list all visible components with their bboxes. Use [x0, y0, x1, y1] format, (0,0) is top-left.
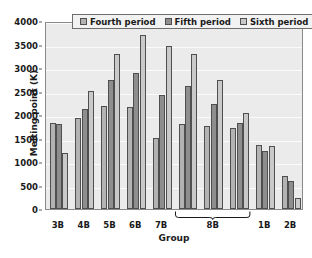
legend-swatch-icon	[165, 18, 172, 25]
bar	[82, 109, 88, 209]
bar	[75, 118, 81, 209]
y-tick-label: 0	[32, 206, 38, 215]
y-tick-label: 500	[20, 182, 38, 191]
bar	[217, 80, 223, 209]
y-tick-mark	[39, 22, 42, 23]
y-tick-label: 2000	[14, 112, 38, 121]
bracket-icon	[45, 211, 303, 220]
legend-entry: Sixth period	[240, 17, 308, 27]
x-tick-label: 7B	[155, 220, 167, 230]
bar	[269, 146, 275, 209]
bar	[114, 54, 120, 209]
bar	[101, 106, 107, 209]
y-tick-label: 3500	[14, 41, 38, 50]
y-tick-mark	[39, 116, 42, 117]
bar	[159, 95, 165, 209]
bar	[295, 198, 301, 209]
bar	[185, 86, 191, 209]
bar	[237, 123, 243, 209]
x-tick-label: 6B	[129, 220, 141, 230]
y-axis-ticks: 05001000150020002500300035004000	[6, 22, 42, 210]
x-tick-label: 4B	[77, 220, 89, 230]
bar	[211, 104, 217, 209]
y-tick-mark	[39, 92, 42, 93]
bar	[56, 124, 62, 209]
melting-point-bar-chart: Melting point (K) 0500100015002000250030…	[0, 0, 312, 258]
y-tick-label: 1500	[14, 135, 38, 144]
x-tick-label: 5B	[103, 220, 115, 230]
y-tick-label: 1000	[14, 159, 38, 168]
bar	[282, 176, 288, 209]
bar	[62, 153, 68, 209]
legend-swatch-icon	[240, 18, 247, 25]
legend-label: Sixth period	[250, 17, 308, 27]
bar	[262, 151, 268, 209]
y-tick-label: 2500	[14, 88, 38, 97]
y-tick-mark	[39, 139, 42, 140]
bar	[256, 145, 262, 209]
bar	[153, 138, 159, 209]
legend-label: Fifth period	[175, 17, 231, 27]
legend-entry: Fourth period	[80, 17, 156, 27]
bar	[191, 54, 197, 209]
bar	[243, 113, 249, 209]
bars-container	[46, 23, 302, 209]
bar	[88, 91, 94, 209]
bar	[133, 73, 139, 209]
bar	[127, 107, 133, 209]
bar	[204, 126, 210, 209]
bar	[288, 181, 294, 209]
x-tick-label: 3B	[52, 220, 64, 230]
y-tick-mark	[39, 186, 42, 187]
y-tick-label: 3000	[14, 65, 38, 74]
bar	[230, 128, 236, 209]
y-tick-mark	[39, 163, 42, 164]
y-tick-mark	[39, 69, 42, 70]
legend-label: Fourth period	[90, 17, 156, 27]
legend-entry: Fifth period	[165, 17, 231, 27]
y-tick-mark	[39, 210, 42, 211]
x-tick-label: 2B	[284, 220, 296, 230]
bar	[140, 35, 146, 209]
x-tick-label: 1B	[258, 220, 270, 230]
x-axis-title: Group	[45, 233, 303, 243]
y-tick-mark	[39, 45, 42, 46]
bar	[50, 123, 56, 209]
bar	[108, 80, 114, 209]
plot-area	[45, 22, 303, 210]
chart-legend: Fourth periodFifth periodSixth period	[72, 14, 312, 29]
group-8b-bracket	[45, 211, 303, 220]
legend-swatch-icon	[80, 18, 87, 25]
bar	[179, 124, 185, 209]
bar	[166, 46, 172, 209]
y-tick-label: 4000	[14, 18, 38, 27]
x-tick-label: 8B	[206, 220, 218, 230]
